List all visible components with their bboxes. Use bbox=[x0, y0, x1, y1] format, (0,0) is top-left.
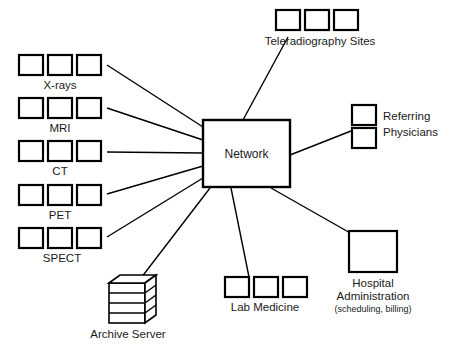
lab-medicine-box-2 bbox=[254, 277, 278, 297]
link-teleradiography-to-network bbox=[243, 37, 288, 120]
ct-label: CT bbox=[52, 165, 67, 177]
pet-box-2 bbox=[48, 185, 72, 205]
teleradiography-box-3 bbox=[334, 10, 358, 30]
spect-label: SPECT bbox=[43, 252, 81, 264]
xrays-box-2 bbox=[48, 55, 72, 75]
mri-box-3 bbox=[77, 98, 101, 118]
spect-box-2 bbox=[48, 228, 72, 248]
xrays-box-1 bbox=[19, 55, 43, 75]
referring-physicians-label-line-2: Physicians bbox=[383, 126, 438, 138]
link-physicians-to-network bbox=[290, 131, 351, 155]
modality-ct[interactable]: CT bbox=[19, 141, 101, 177]
pet-box-3 bbox=[77, 185, 101, 205]
mri-label: MRI bbox=[49, 122, 70, 134]
link-mri-to-network bbox=[107, 108, 203, 140]
lab-medicine-box-3 bbox=[283, 277, 307, 297]
pet-box-1 bbox=[19, 185, 43, 205]
network-hub-label: Network bbox=[224, 147, 269, 161]
hospital-administration-sub-label: (scheduling, billing) bbox=[334, 304, 411, 314]
modality-xrays[interactable]: X-rays bbox=[19, 55, 101, 91]
ct-box-3 bbox=[77, 141, 101, 161]
referring-physicians[interactable]: Referring Physicians bbox=[352, 105, 438, 148]
pet-label: PET bbox=[49, 209, 71, 221]
lab-medicine-box-1 bbox=[225, 277, 249, 297]
referring-physicians-label-line-1: Referring bbox=[383, 110, 430, 122]
link-xrays-to-network bbox=[107, 65, 203, 127]
ct-box-1 bbox=[19, 141, 43, 161]
teleradiography-sites[interactable]: Teleradiography Sites bbox=[265, 10, 376, 47]
hospital-administration[interactable]: Hospital Administration (scheduling, bil… bbox=[334, 231, 411, 314]
lab-medicine-label: Lab Medicine bbox=[231, 301, 299, 313]
link-spect-to-network bbox=[107, 178, 203, 237]
modality-mri[interactable]: MRI bbox=[19, 98, 101, 134]
link-archive-to-network bbox=[141, 188, 210, 278]
link-hospital-to-network bbox=[271, 188, 352, 234]
xrays-label: X-rays bbox=[43, 79, 76, 91]
referring-physicians-box-2 bbox=[352, 128, 376, 148]
referring-physicians-box-1 bbox=[352, 105, 376, 125]
link-lab-to-network bbox=[231, 188, 249, 277]
teleradiography-box-1 bbox=[276, 10, 300, 30]
spect-box-3 bbox=[77, 228, 101, 248]
teleradiography-sites-label: Teleradiography Sites bbox=[265, 35, 376, 47]
mri-box-1 bbox=[19, 98, 43, 118]
link-ct-to-network bbox=[107, 152, 203, 153]
network-diagram: Network X-rays MRI CT PET bbox=[0, 0, 456, 351]
hospital-administration-label-line-1: Hospital bbox=[352, 277, 394, 289]
hospital-administration-label-line-2: Administration bbox=[337, 290, 410, 302]
modality-pet[interactable]: PET bbox=[19, 185, 101, 221]
archive-server-label: Archive Server bbox=[90, 328, 166, 340]
diagram-canvas: Network X-rays MRI CT PET bbox=[0, 0, 456, 351]
xrays-box-3 bbox=[77, 55, 101, 75]
link-pet-to-network bbox=[107, 166, 203, 194]
modality-spect[interactable]: SPECT bbox=[19, 228, 101, 264]
archive-server[interactable]: Archive Server bbox=[90, 275, 166, 340]
mri-box-2 bbox=[48, 98, 72, 118]
ct-box-2 bbox=[48, 141, 72, 161]
hospital-administration-box bbox=[349, 231, 397, 272]
teleradiography-box-2 bbox=[305, 10, 329, 30]
spect-box-1 bbox=[19, 228, 43, 248]
lab-medicine[interactable]: Lab Medicine bbox=[225, 277, 307, 313]
network-hub[interactable]: Network bbox=[203, 120, 290, 187]
